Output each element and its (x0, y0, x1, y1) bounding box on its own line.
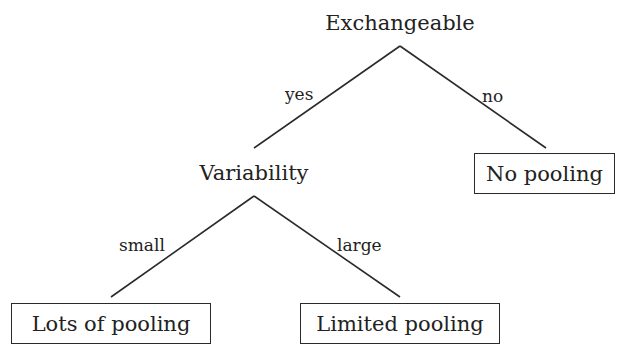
leaf-no-pooling: No pooling (474, 153, 615, 194)
edge-label-small: small (119, 235, 165, 255)
root-node-exchangeable: Exchangeable (325, 10, 474, 36)
internal-node-variability: Variability (200, 160, 309, 186)
leaf-limited-pooling: Limited pooling (300, 303, 500, 344)
edge-label-large: large (337, 235, 382, 255)
decision-tree-diagram: Exchangeable yes no Variability No pooli… (0, 0, 621, 352)
edge-label-yes: yes (285, 84, 313, 104)
edge-exchangeable-no (400, 46, 546, 148)
edge-label-no: no (482, 86, 503, 106)
edge-exchangeable-yes (254, 46, 400, 148)
leaf-lots-of-pooling: Lots of pooling (11, 303, 211, 344)
